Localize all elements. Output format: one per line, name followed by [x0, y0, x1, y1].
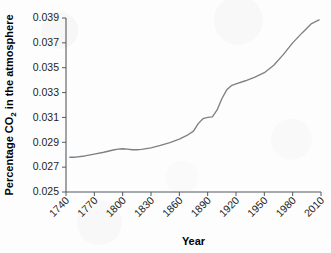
x-tick-label: 1950	[245, 194, 270, 219]
y-axis-title: Percentage CO2 in the atmosphere	[3, 14, 18, 195]
x-tick-label: 1890	[188, 194, 213, 219]
x-tick-label: 1740	[46, 194, 71, 219]
y-tick-label: 0.025	[33, 185, 59, 197]
x-tick-label: 1920	[216, 194, 241, 219]
data-series-line	[70, 20, 319, 157]
y-tick-label: 0.031	[33, 111, 59, 123]
x-tick-label: 1830	[131, 194, 156, 219]
x-axis-title: Year	[182, 235, 206, 247]
y-tick-label: 0.027	[33, 160, 59, 172]
y-tick-label: 0.037	[33, 36, 59, 48]
x-tick-label: 1980	[273, 194, 298, 219]
y-axis-title-main: Percentage CO	[3, 116, 15, 195]
y-axis-title-tail: in the atmosphere	[3, 14, 15, 112]
x-tick-label: 1860	[160, 194, 185, 219]
x-tick-label: 1800	[103, 194, 128, 219]
y-tick-label: 0.035	[33, 61, 59, 73]
x-tick-label: 2010	[301, 194, 326, 219]
chart-figure: 0.0250.0270.0290.0310.0330.0350.0370.039…	[0, 0, 331, 253]
y-tick-label: 0.029	[33, 136, 59, 148]
y-tick-label: 0.033	[33, 86, 59, 98]
chart-canvas: 0.0250.0270.0290.0310.0330.0350.0370.039…	[0, 0, 331, 253]
y-tick-label: 0.039	[33, 11, 59, 23]
x-tick-label: 1770	[75, 194, 100, 219]
